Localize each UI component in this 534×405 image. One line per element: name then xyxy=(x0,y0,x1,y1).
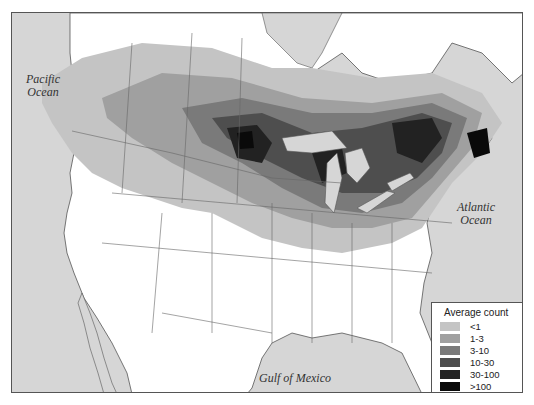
legend-item: 3-10 xyxy=(440,344,516,356)
atlantic-ocean-label: Atlantic Ocean xyxy=(457,201,495,227)
legend-swatch xyxy=(440,382,460,391)
legend-label: <1 xyxy=(470,321,481,332)
atlantic-line1: Atlantic xyxy=(457,200,495,214)
legend-label: 3-10 xyxy=(470,345,489,356)
legend-swatch xyxy=(440,358,460,367)
legend-swatch xyxy=(440,334,460,343)
legend-item: 1-3 xyxy=(440,332,516,344)
legend-swatch xyxy=(440,370,460,379)
legend-swatch xyxy=(440,322,460,331)
legend-title: Average count xyxy=(440,307,516,318)
legend-item: >100 xyxy=(440,380,516,392)
atlantic-line2: Ocean xyxy=(460,213,491,227)
pacific-line2: Ocean xyxy=(27,85,58,99)
legend: Average count <1 1-3 3-10 10-30 30-100 >… xyxy=(431,302,523,393)
legend-label: >100 xyxy=(470,381,491,392)
gulf-line1: Gulf of Mexico xyxy=(259,371,331,385)
legend-item: <1 xyxy=(440,320,516,332)
legend-swatch xyxy=(440,346,460,355)
gulf-of-mexico-label: Gulf of Mexico xyxy=(259,372,331,385)
legend-item: 10-30 xyxy=(440,356,516,368)
pacific-line1: Pacific xyxy=(26,72,60,86)
legend-label: 30-100 xyxy=(470,369,500,380)
legend-label: 10-30 xyxy=(470,357,494,368)
legend-label: 1-3 xyxy=(470,333,484,344)
pacific-ocean-label: Pacific Ocean xyxy=(26,73,60,99)
legend-item: 30-100 xyxy=(440,368,516,380)
